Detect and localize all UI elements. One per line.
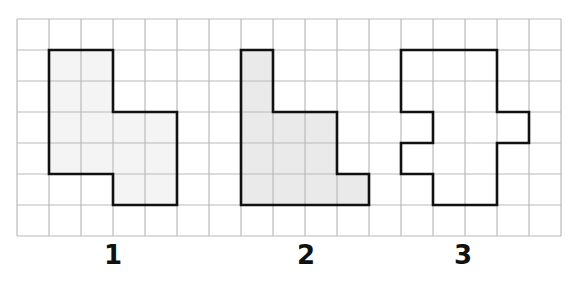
- shape-label-2: 2: [286, 240, 326, 270]
- shape-label-3: 3: [443, 240, 483, 270]
- shape-fills: [49, 50, 529, 205]
- grid-figure: 1 2 3: [0, 0, 573, 287]
- shape-label-1: 1: [93, 240, 133, 270]
